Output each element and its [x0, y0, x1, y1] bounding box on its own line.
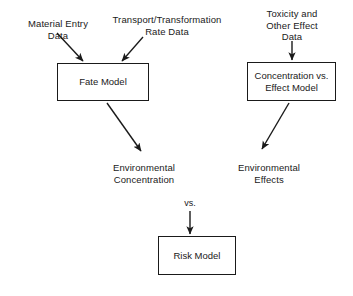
arrow-transport-rate-to-fate-model — [122, 37, 143, 61]
box-risk-model[interactable]: Risk Model — [158, 236, 236, 275]
box-label-fate-model: Fate Model — [79, 76, 127, 88]
box-label-risk-model: Risk Model — [174, 250, 221, 262]
output-label-environmental-concentration: Environmental Concentration — [92, 162, 196, 185]
box-label-concentration-vs-effect-model: Concentration vs. Effect Model — [255, 70, 329, 93]
input-label-material-entry-data: Material Entry Data — [10, 18, 106, 41]
box-fate-model[interactable]: Fate Model — [57, 63, 149, 101]
versus-label: vs. — [176, 198, 204, 208]
input-label-transport-transformation-rate-data: Transport/Transformation Rate Data — [96, 14, 238, 37]
risk-assessment-diagram: Material Entry Data Transport/Transforma… — [0, 0, 353, 296]
box-concentration-vs-effect-model[interactable]: Concentration vs. Effect Model — [247, 62, 336, 101]
arrow-fate-model-to-environmental-concentration — [107, 103, 141, 151]
arrow-concentration-effect-model-to-environmental-effects — [262, 103, 289, 149]
input-label-toxicity-and-other-effect-data: Toxicity and Other Effect Data — [250, 8, 334, 43]
output-label-environmental-effects: Environmental Effects — [222, 162, 316, 185]
